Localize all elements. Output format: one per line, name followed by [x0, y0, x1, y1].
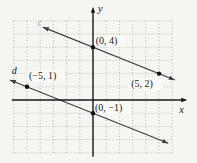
point-label: (−5, 1) — [29, 70, 56, 82]
graph-figure: xy(0, 4)(5, 2)(−5, 1)(0, −1)dc — [0, 0, 197, 163]
coordinate-plane-graph: xy(0, 4)(5, 2)(−5, 1)(0, −1)dc — [0, 0, 197, 163]
point-label: (0, 4) — [96, 35, 118, 47]
data-point — [25, 85, 29, 89]
y-axis-label: y — [97, 3, 103, 14]
data-point — [91, 45, 95, 49]
data-point — [157, 71, 161, 75]
x-axis-label: x — [178, 104, 184, 115]
point-label: (5, 2) — [131, 78, 153, 90]
line-label: c — [38, 17, 43, 28]
point-label: (0, −1) — [95, 102, 122, 114]
